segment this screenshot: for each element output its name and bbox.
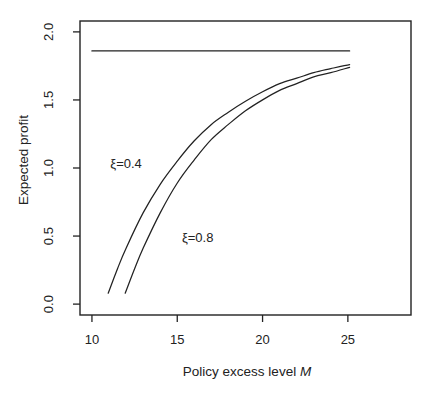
annotation-expected-profit-xi-0.4: ξ=0.4 <box>110 156 141 171</box>
x-axis-title-variable: M <box>300 364 312 379</box>
x-axis-title-text: Policy excess level <box>183 364 300 379</box>
y-tick-label: 2.0 <box>41 23 56 41</box>
x-tick-label: 25 <box>341 332 355 347</box>
x-tick-label: 20 <box>255 332 269 347</box>
y-tick-label: 0.5 <box>41 227 56 245</box>
y-axis-title: Expected profit <box>16 115 31 205</box>
x-axis-title: Policy excess level M <box>183 364 312 379</box>
figure: 101520250.00.51.01.52.0ξ=0.4ξ=0.8 Expect… <box>0 0 430 397</box>
curve-expected-profit-xi-0.4 <box>108 65 349 294</box>
x-tick-label: 10 <box>85 332 99 347</box>
annotation-expected-profit-xi-0.8: ξ=0.8 <box>182 230 213 245</box>
curve-expected-profit-xi-0.8 <box>125 67 349 293</box>
y-tick-label: 1.0 <box>41 159 56 177</box>
profit-chart: 101520250.00.51.01.52.0ξ=0.4ξ=0.8 Expect… <box>0 0 430 397</box>
plot-area: 101520250.00.51.01.52.0ξ=0.4ξ=0.8 <box>41 21 411 347</box>
y-tick-label: 0.0 <box>41 295 56 313</box>
x-tick-label: 15 <box>170 332 184 347</box>
y-tick-label: 1.5 <box>41 91 56 109</box>
